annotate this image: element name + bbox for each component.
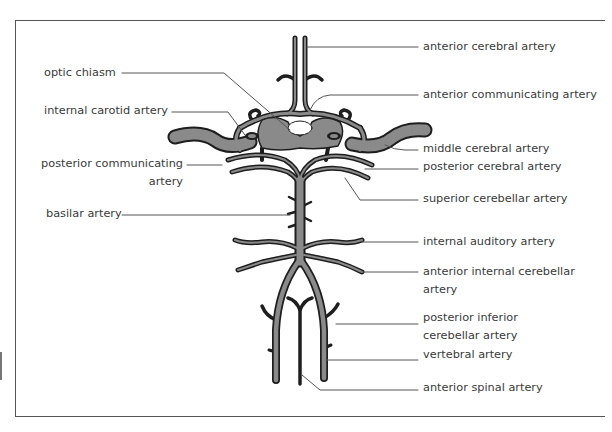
- label-anterior-internal-cerebellar-artery: anterior internal cerebellar artery: [423, 263, 575, 299]
- label-middle-cerebral-artery: middle cerebral artery: [423, 140, 549, 158]
- label-vertebral-artery: vertebral artery: [423, 346, 512, 364]
- label-internal-carotid-artery: internal carotid artery: [44, 102, 168, 120]
- leader-lines: [122, 47, 418, 390]
- label-posterior-cerebral-artery: posterior cerebral artery: [423, 158, 562, 176]
- label-line: artery: [423, 281, 575, 299]
- label-posterior-communicating-artery: posterior communicating artery: [36, 155, 183, 191]
- label-line: artery: [36, 173, 183, 191]
- label-superior-cerebellar-artery: superior cerebellar artery: [423, 190, 567, 208]
- label-line: posterior communicating: [36, 155, 183, 173]
- label-line: posterior inferior: [423, 309, 518, 327]
- label-anterior-communicating-artery: anterior communicating artery: [423, 86, 597, 104]
- label-anterior-cerebral-artery: anterior cerebral artery: [423, 38, 556, 56]
- label-basilar-artery: basilar artery: [46, 205, 122, 223]
- label-line: anterior internal cerebellar: [423, 263, 575, 281]
- label-posterior-inferior-cerebellar-artery: posterior inferior cerebellar artery: [423, 309, 518, 345]
- label-anterior-spinal-artery: anterior spinal artery: [423, 379, 543, 397]
- label-line: cerebellar artery: [423, 327, 518, 345]
- label-optic-chiasm: optic chiasm: [44, 64, 116, 82]
- label-internal-auditory-artery: internal auditory artery: [423, 233, 555, 251]
